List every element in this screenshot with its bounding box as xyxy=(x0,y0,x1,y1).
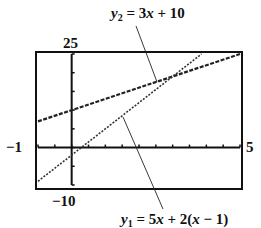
graph-window: 25 −10 −1 5 y2 = 3x + 10 y1 = 5x + 2(x −… xyxy=(0,0,261,228)
plot-lines xyxy=(38,54,240,181)
plot-frame xyxy=(36,52,242,189)
axes xyxy=(38,54,240,185)
callout-lines xyxy=(123,26,163,209)
y1-callout-line xyxy=(123,117,163,209)
ymax-label: 25 xyxy=(63,35,78,51)
y1-line xyxy=(38,54,202,181)
xmax-label: 5 xyxy=(246,139,254,155)
y1-equation-label: y1 = 5x + 2(x − 1) xyxy=(119,211,228,228)
y2-equation-label: y2 = 3x + 10 xyxy=(109,5,185,23)
y2-callout-line xyxy=(136,26,157,82)
xmin-label: −1 xyxy=(6,139,22,155)
ymin-label: −10 xyxy=(52,193,76,209)
y2-line xyxy=(38,54,240,121)
